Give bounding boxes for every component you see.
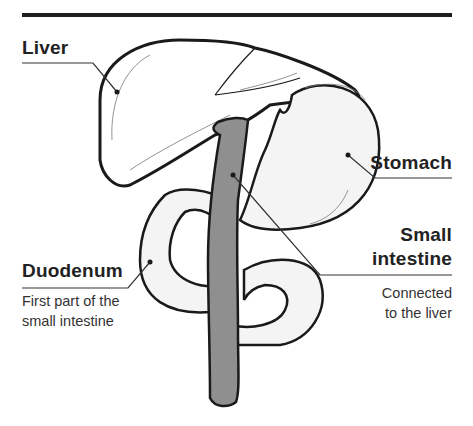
duodenum-label: Duodenum: [22, 260, 123, 282]
bile-duct-shape: [208, 118, 248, 406]
anatomy-illustration: [0, 0, 473, 426]
small-intestine-desc-line1: Connected: [382, 283, 452, 303]
small-intestine-title-line2: intestine: [372, 247, 452, 271]
small-intestine-description: Connected to the liver: [382, 283, 452, 323]
stomach-label: Stomach: [370, 152, 452, 174]
small-intestine-desc-line2: to the liver: [382, 303, 452, 323]
small-intestine-title-line1: Small: [372, 223, 452, 247]
duodenum-desc-line2: small intestine: [22, 311, 120, 331]
small-intestine-label: Small intestine: [372, 223, 452, 271]
liver-label: Liver: [22, 37, 68, 59]
duodenum-desc-line1: First part of the: [22, 291, 120, 311]
duodenum-description: First part of the small intestine: [22, 291, 120, 331]
